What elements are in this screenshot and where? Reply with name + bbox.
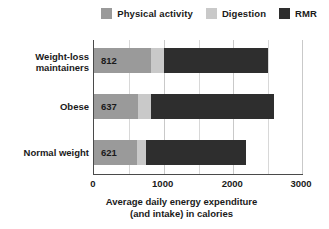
stacked-bar-chart: Physical activity Digestion RMR Weight-l… [0, 0, 329, 229]
bar-value-label: 637 [101, 102, 117, 112]
x-axis-tick-3000: 3000 [290, 178, 311, 189]
x-axis-tick-2000: 2000 [222, 178, 243, 189]
bar-segment-digestion[interactable] [137, 140, 146, 165]
y-axis-label-line-1: Normal weight [24, 147, 89, 158]
bar-segment-physical-activity[interactable]: 621 [94, 140, 137, 165]
legend-label-rmr: RMR [295, 9, 317, 19]
y-axis-label-line-1: Obese [60, 101, 89, 112]
x-axis-title-line-2: (and intake) in calories [34, 208, 329, 220]
bar-segment-rmr[interactable] [146, 140, 246, 165]
plot-area: 812 637 621 [93, 40, 303, 175]
bar-value-label: 621 [101, 148, 117, 158]
bar-row[interactable]: 637 [94, 94, 274, 119]
y-axis-label-line-1: Weight-loss [35, 51, 89, 62]
y-axis-label-normal-weight: Normal weight [0, 147, 89, 158]
bar-row[interactable]: 812 [94, 48, 268, 73]
legend-swatch-physical-activity [101, 8, 112, 19]
legend-item-rmr: RMR [279, 8, 317, 19]
y-axis-label-obese: Obese [0, 101, 89, 112]
x-axis-tick-labels: 0 1000 2000 3000 [93, 178, 302, 191]
legend-swatch-rmr [279, 8, 290, 19]
legend-item-digestion: Digestion [206, 8, 266, 19]
chart-legend: Physical activity Digestion RMR [0, 8, 329, 19]
bar-segment-digestion[interactable] [138, 94, 151, 119]
bar-segment-rmr[interactable] [164, 48, 269, 73]
legend-label-digestion: Digestion [222, 9, 266, 19]
bar-segment-rmr[interactable] [151, 94, 274, 119]
x-axis-title: Average daily energy expenditure (and in… [0, 196, 329, 220]
bar-segment-physical-activity[interactable]: 637 [94, 94, 138, 119]
x-axis-tick-0: 0 [90, 178, 95, 189]
bar-segment-physical-activity[interactable]: 812 [94, 48, 151, 73]
legend-swatch-digestion [206, 8, 217, 19]
y-axis-label-weight-loss-maintainers: Weight-loss maintainers [0, 51, 89, 73]
bar-value-label: 812 [101, 56, 117, 66]
legend-item-physical-activity: Physical activity [101, 8, 193, 19]
x-axis-title-line-1: Average daily energy expenditure [34, 196, 329, 208]
x-axis-tick-1000: 1000 [152, 178, 173, 189]
y-axis-category-labels: Weight-loss maintainers Obese Normal wei… [0, 40, 89, 174]
bar-row[interactable]: 621 [94, 140, 246, 165]
y-axis-label-line-2: maintainers [36, 62, 89, 73]
bar-series: 812 637 621 [94, 40, 303, 174]
legend-label-physical-activity: Physical activity [117, 9, 193, 19]
bar-segment-digestion[interactable] [151, 48, 164, 73]
